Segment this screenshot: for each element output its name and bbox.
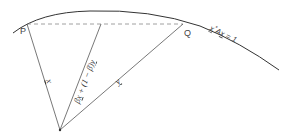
vector-x-label: x: [44, 77, 55, 85]
point-q-label: Q: [184, 28, 191, 38]
curve-equation-label: x*Ax = 1: [207, 22, 239, 44]
surface-curve: [13, 11, 279, 70]
combination-label: βx + (1 − β)y: [71, 58, 97, 106]
point-p-label: P: [20, 26, 26, 36]
vector-y-line: [60, 24, 183, 130]
convexity-diagram: P Q x y βx + (1 − β)y x*Ax = 1: [0, 0, 297, 138]
vector-x-line: [27, 24, 60, 130]
origin-point: [59, 129, 61, 131]
